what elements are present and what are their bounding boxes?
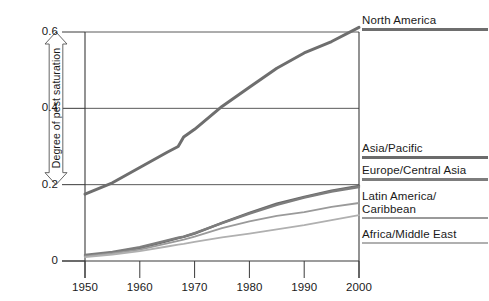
series-line-0 [85, 27, 359, 194]
legend-color-swatch [362, 217, 488, 219]
series-line-2 [85, 187, 359, 255]
y-tick-label: 0.2 [24, 178, 58, 190]
y-tick-label: 0.6 [24, 25, 58, 37]
legend-entry-1: Asia/Pacific [362, 142, 488, 159]
series-lines [85, 27, 359, 257]
x-tick-label: 1980 [227, 281, 271, 293]
x-tick-label: 1990 [282, 281, 326, 293]
legend-label: Europe/Central Asia [362, 164, 488, 177]
legend-entry-0: North America [362, 14, 488, 31]
x-tick-label: 2000 [337, 281, 381, 293]
legend-color-swatch [362, 28, 488, 31]
x-tick-label: 1950 [63, 281, 107, 293]
legend-label: Africa/Middle East [362, 228, 488, 241]
legend-entry-3: Latin America/ Caribbean [362, 190, 488, 219]
legend-color-swatch [362, 156, 488, 159]
legend-entry-2: Europe/Central Asia [362, 164, 488, 181]
legend-entry-4: Africa/Middle East [362, 228, 488, 244]
legend-color-swatch [362, 178, 488, 181]
y-tick-label: 0.4 [24, 101, 58, 113]
legend-label: North America [362, 14, 488, 27]
x-tick-label: 1960 [118, 281, 162, 293]
y-tick-label: 0 [24, 254, 58, 266]
legend-color-swatch [362, 242, 488, 244]
legend-label: Latin America/ Caribbean [362, 190, 488, 216]
x-tick-label: 1970 [173, 281, 217, 293]
x-axis-ticks [85, 261, 359, 278]
legend-label: Asia/Pacific [362, 142, 488, 155]
series-line-1 [85, 186, 359, 256]
axis-lines [62, 32, 359, 278]
pest-saturation-line-chart: Degree of pest saturation 0.60.40.20 195… [0, 0, 489, 301]
